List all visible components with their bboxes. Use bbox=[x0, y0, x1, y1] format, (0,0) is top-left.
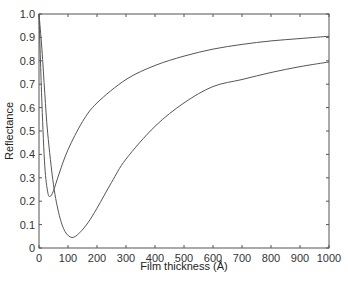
y-tick-label: 0.6 bbox=[20, 102, 35, 114]
y-tick-label: 1.0 bbox=[20, 8, 35, 20]
plot-frame bbox=[39, 14, 329, 248]
data-series bbox=[39, 14, 329, 237]
x-tick-label: 1000 bbox=[317, 252, 341, 264]
plot-border bbox=[39, 14, 329, 248]
curve-upper bbox=[39, 14, 329, 197]
x-tick-label: 0 bbox=[36, 252, 42, 264]
x-tick-label: 900 bbox=[291, 252, 309, 264]
y-tick-label: 0.2 bbox=[20, 195, 35, 207]
x-axis-title: Film thickness (Å) bbox=[140, 260, 227, 272]
y-axis-ticks: 00.10.20.30.40.50.60.70.80.91.0 bbox=[20, 8, 329, 254]
y-tick-label: 0.3 bbox=[20, 172, 35, 184]
curve-lower bbox=[39, 14, 329, 237]
reflectance-chart: 01002003004005006007008009001000 00.10.2… bbox=[0, 0, 348, 286]
x-tick-label: 300 bbox=[117, 252, 135, 264]
y-axis-title: Reflectance bbox=[3, 102, 15, 160]
x-tick-label: 700 bbox=[233, 252, 251, 264]
y-tick-label: 0.7 bbox=[20, 78, 35, 90]
y-tick-label: 0.9 bbox=[20, 31, 35, 43]
y-tick-label: 0.8 bbox=[20, 55, 35, 67]
y-tick-label: 0.4 bbox=[20, 148, 35, 160]
x-tick-label: 800 bbox=[262, 252, 280, 264]
x-tick-label: 100 bbox=[59, 252, 77, 264]
y-tick-label: 0.5 bbox=[20, 125, 35, 137]
y-tick-label: 0 bbox=[29, 242, 35, 254]
x-axis-ticks: 01002003004005006007008009001000 bbox=[36, 14, 341, 264]
y-tick-label: 0.1 bbox=[20, 219, 35, 231]
x-tick-label: 200 bbox=[88, 252, 106, 264]
